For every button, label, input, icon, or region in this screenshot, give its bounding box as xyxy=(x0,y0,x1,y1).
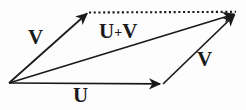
label-vector-v-left: V xyxy=(28,27,43,48)
dotted-closure-line xyxy=(89,12,236,13)
label-sum-first-term: U xyxy=(99,21,114,42)
label-vector-u-plus-v: U + V xyxy=(99,21,137,42)
label-sum-operator: + xyxy=(114,26,122,40)
label-sum-second-term: V xyxy=(122,21,137,42)
label-vector-v-right: V xyxy=(197,49,212,70)
vector-v-left-line xyxy=(9,14,87,84)
label-vector-u-bottom: U xyxy=(73,85,88,106)
vector-parallelogram-diagram: V U + V V U xyxy=(0,0,246,110)
